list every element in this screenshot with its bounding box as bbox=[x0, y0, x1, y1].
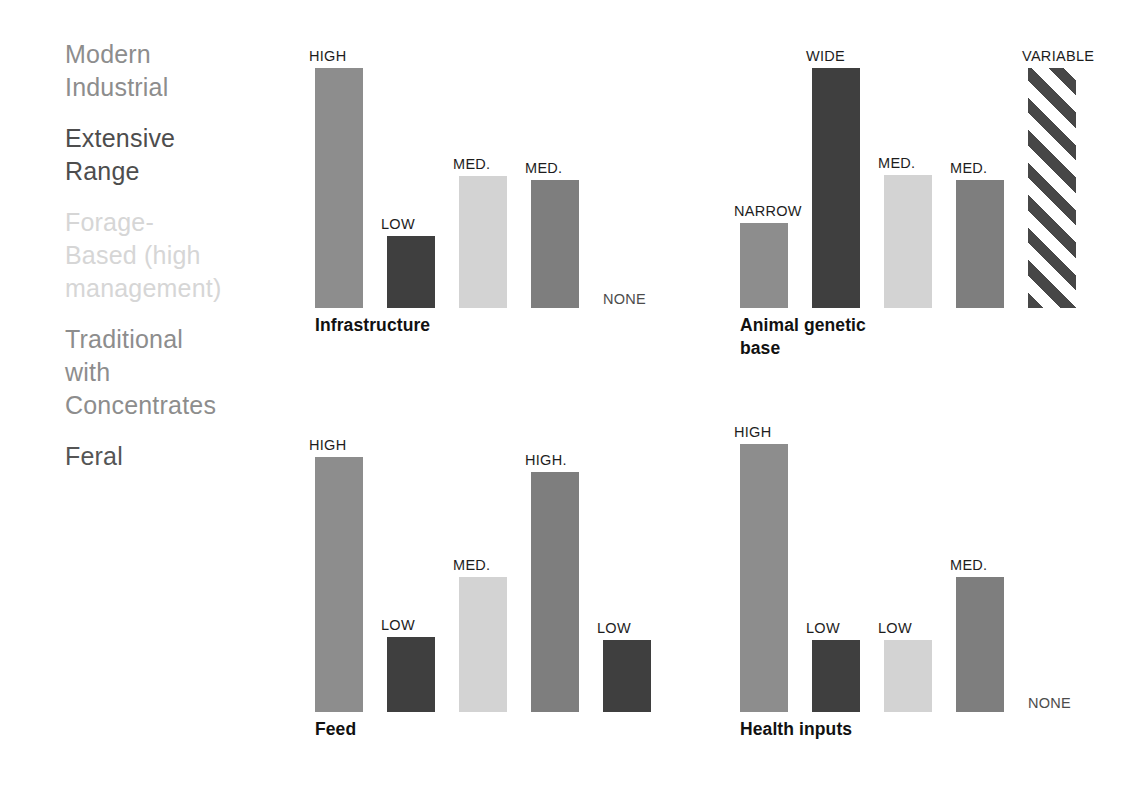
chart-panel-feed: HIGHLOWMED.HIGH.LOW Feed bbox=[315, 462, 675, 712]
bar-group: HIGH bbox=[740, 462, 788, 712]
bar-group: LOW bbox=[812, 462, 860, 712]
bar-group: HIGH bbox=[315, 462, 363, 712]
bar-value-label: HIGH bbox=[734, 425, 804, 440]
bar-value-label: VARIABLE bbox=[1022, 49, 1092, 64]
bar-value-label: MED. bbox=[950, 161, 1020, 176]
chart-title-feed: Feed bbox=[315, 718, 356, 741]
figure-canvas: Modern Industrial Extensive Range Forage… bbox=[0, 0, 1143, 795]
bar bbox=[459, 176, 507, 308]
bar-group: LOW bbox=[387, 58, 435, 308]
bar-value-label: HIGH. bbox=[525, 453, 595, 468]
bar bbox=[740, 223, 788, 308]
bar-group: HIGH. bbox=[531, 462, 579, 712]
chart-panel-infrastructure: HIGHLOWMED.MED.NONE Infrastructure bbox=[315, 58, 675, 308]
bar-group: VARIABLE bbox=[1028, 58, 1076, 308]
bar bbox=[315, 68, 363, 308]
bar bbox=[387, 236, 435, 308]
bar-group: MED. bbox=[956, 58, 1004, 308]
legend-item-modern-industrial: Modern Industrial bbox=[65, 38, 280, 104]
bar bbox=[315, 457, 363, 712]
bar-value-label: MED. bbox=[878, 156, 948, 171]
chart-panel-animal-genetic-base: NARROWWIDEMED.MED.VARIABLE Animal geneti… bbox=[740, 58, 1100, 308]
bar-value-label: HIGH bbox=[309, 438, 379, 453]
bar-value-label: NARROW bbox=[734, 204, 804, 219]
legend-item-extensive-range: Extensive Range bbox=[65, 122, 280, 188]
bar-value-label: LOW bbox=[381, 217, 451, 232]
bar bbox=[1028, 68, 1076, 308]
plot-area-feed: HIGHLOWMED.HIGH.LOW bbox=[315, 462, 675, 712]
plot-area-infrastructure: HIGHLOWMED.MED.NONE bbox=[315, 58, 675, 308]
bar bbox=[387, 637, 435, 712]
bar-group: LOW bbox=[603, 462, 651, 712]
bar-value-label: LOW bbox=[878, 621, 948, 636]
bar-value-label: MED. bbox=[453, 157, 523, 172]
bar-group: MED. bbox=[531, 58, 579, 308]
bar-value-label: HIGH bbox=[309, 49, 379, 64]
bar-value-label: NONE bbox=[1028, 696, 1098, 711]
legend-item-feral: Feral bbox=[65, 440, 280, 473]
bar-group: WIDE bbox=[812, 58, 860, 308]
bar bbox=[531, 472, 579, 712]
legend-item-traditional-with-concentrates: Traditional with Concentrates bbox=[65, 323, 280, 422]
bar bbox=[812, 640, 860, 712]
bar-group: MED. bbox=[459, 58, 507, 308]
bar-value-label: MED. bbox=[525, 161, 595, 176]
bar-value-label: MED. bbox=[453, 558, 523, 573]
bar-group: MED. bbox=[884, 58, 932, 308]
chart-title-health-inputs: Health inputs bbox=[740, 718, 852, 741]
chart-title-infrastructure: Infrastructure bbox=[315, 314, 430, 337]
bar-group: MED. bbox=[459, 462, 507, 712]
bar-value-label: NONE bbox=[603, 292, 673, 307]
bar-value-label: LOW bbox=[806, 621, 876, 636]
bar-value-label: LOW bbox=[597, 621, 667, 636]
bar bbox=[459, 577, 507, 712]
bar-group: NONE bbox=[603, 58, 651, 308]
bar-group: HIGH bbox=[315, 58, 363, 308]
bar-group: LOW bbox=[884, 462, 932, 712]
bar bbox=[956, 577, 1004, 712]
bar bbox=[531, 180, 579, 308]
bar bbox=[740, 444, 788, 712]
bar-value-label: WIDE bbox=[806, 49, 876, 64]
bar-value-label: LOW bbox=[381, 618, 451, 633]
bar-group: LOW bbox=[387, 462, 435, 712]
legend: Modern Industrial Extensive Range Forage… bbox=[65, 38, 280, 473]
plot-area-health-inputs: HIGHLOWLOWMED.NONE bbox=[740, 462, 1100, 712]
bar bbox=[812, 68, 860, 308]
bar bbox=[884, 175, 932, 308]
bar bbox=[884, 640, 932, 712]
bar-group: MED. bbox=[956, 462, 1004, 712]
bar-group: NARROW bbox=[740, 58, 788, 308]
bar-group: NONE bbox=[1028, 462, 1076, 712]
bar bbox=[956, 180, 1004, 308]
plot-area-animal-genetic-base: NARROWWIDEMED.MED.VARIABLE bbox=[740, 58, 1100, 308]
chart-panel-health-inputs: HIGHLOWLOWMED.NONE Health inputs bbox=[740, 462, 1100, 712]
legend-item-forage-based: Forage- Based (high management) bbox=[65, 206, 280, 305]
bar bbox=[603, 640, 651, 712]
bar-value-label: MED. bbox=[950, 558, 1020, 573]
chart-title-animal-genetic-base: Animal genetic base bbox=[740, 314, 866, 360]
